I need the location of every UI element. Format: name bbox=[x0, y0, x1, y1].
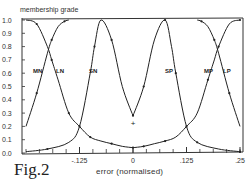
plus-marker: + bbox=[131, 119, 136, 128]
x-tick-label: .25 bbox=[235, 157, 245, 164]
y-tick-label: 0.4 bbox=[2, 96, 12, 103]
curve-sp bbox=[133, 20, 240, 152]
curve-sn bbox=[26, 20, 133, 152]
curve-ln bbox=[26, 20, 133, 148]
y-tick-label: 0.5 bbox=[2, 83, 12, 90]
series-label-lp: LP bbox=[223, 68, 231, 74]
y-tick-label: 0.6 bbox=[2, 70, 12, 77]
figure-label: Fig.2 bbox=[14, 160, 49, 180]
series-label-sn: SN bbox=[89, 68, 97, 74]
series-label-mp: MP bbox=[204, 68, 213, 74]
y-tick-label: 0.2 bbox=[2, 123, 12, 130]
y-tick-label: 0.7 bbox=[2, 56, 12, 63]
y-axis-label: membership grade bbox=[20, 6, 78, 13]
x-tick-label: 0 bbox=[131, 157, 135, 164]
membership-chart: 0.00.10.20.30.40.50.60.70.80.91.0-.1250.… bbox=[0, 0, 250, 181]
y-tick-label: 0.3 bbox=[2, 110, 12, 117]
x-tick-label: -.125 bbox=[72, 157, 88, 164]
y-tick-label: 0.9 bbox=[2, 30, 12, 37]
membership-curves: + bbox=[26, 19, 241, 153]
series-labels: MNLNSNSPMPLP bbox=[33, 68, 231, 74]
y-tick-label: 1.0 bbox=[2, 17, 12, 24]
x-axis-label: error (normalised) bbox=[96, 167, 163, 176]
series-label-ln: LN bbox=[56, 68, 64, 74]
series-label-sp: SP bbox=[165, 68, 173, 74]
y-tick-label: 0.1 bbox=[2, 136, 12, 143]
top-border bbox=[22, 18, 243, 19]
y-tick-label: 0.0 bbox=[2, 150, 12, 157]
y-tick-label: 0.8 bbox=[2, 43, 12, 50]
curve-lp bbox=[133, 20, 240, 148]
series-label-mn: MN bbox=[33, 68, 42, 74]
x-tick-label: .125 bbox=[180, 157, 194, 164]
